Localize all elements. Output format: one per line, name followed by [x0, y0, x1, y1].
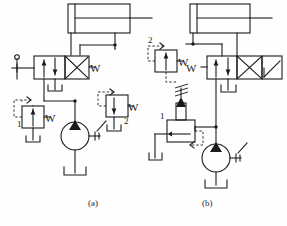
panel-a: W W 1: [12, 4, 152, 175]
hydraulic-circuit-svg: .ln{stroke:#1a1a1a;stroke-width:1.1;fill…: [0, 0, 287, 226]
panel-b-cylinder: [190, 4, 272, 33]
panel-a-cylinder-ports: [71, 33, 117, 55]
panel-a-caption: (a): [88, 198, 98, 208]
panel-b: W 2 W: [148, 4, 282, 188]
panel-b-valve-2-number: 2: [148, 35, 153, 45]
panel-b-valve-tank: [221, 79, 236, 92]
panel-a-valve-tank: [48, 79, 62, 91]
panel-b-valve-1-number: 1: [160, 111, 165, 121]
panel-a-valve-2-port-label: W: [128, 101, 139, 113]
panel-a-manual-lever-actuator[interactable]: [12, 55, 34, 79]
panel-a-hydraulic-pump: [61, 120, 106, 175]
figure-canvas: .ln{stroke:#1a1a1a;stroke-width:1.1;fill…: [0, 0, 287, 226]
panel-a-valve-1-port-label: W: [45, 112, 56, 124]
panel-b-hydraulic-pump: [202, 142, 247, 188]
panel-a-valve-2-number: 2: [124, 116, 129, 126]
panel-a-valve-1-number: 1: [17, 119, 22, 129]
panel-a-main-valve-port-label: W: [90, 62, 101, 74]
panel-b-main-valve-port-label: W: [186, 62, 197, 74]
panel-a-cylinder: [68, 4, 152, 33]
panel-a-directional-control-valve[interactable]: [34, 56, 95, 79]
panel-b-caption: (b): [202, 198, 213, 208]
panel-b-directional-control-valve[interactable]: [201, 56, 282, 79]
panel-b-cylinder-ports: [186, 33, 237, 56]
